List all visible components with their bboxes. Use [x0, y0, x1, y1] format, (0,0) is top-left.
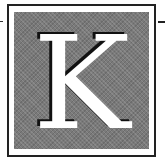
drop-cap-letter: K	[14, 12, 149, 149]
drop-cap-panel: K	[14, 12, 149, 149]
left-rule-mark	[0, 21, 3, 22]
right-rule-mark	[158, 21, 165, 23]
drop-cap-frame: K	[7, 4, 156, 157]
